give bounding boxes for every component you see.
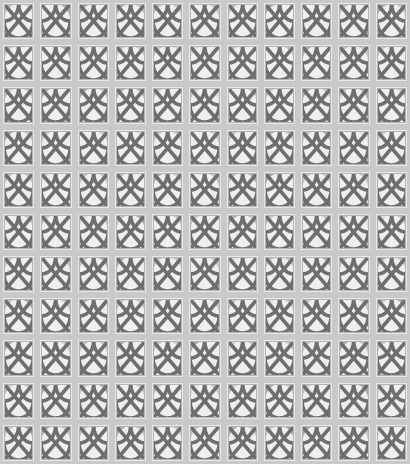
tile-cell bbox=[186, 422, 223, 464]
tile-pattern-10-7 bbox=[264, 425, 295, 461]
tile-pattern-0-0 bbox=[3, 3, 34, 39]
tile-cell bbox=[186, 169, 223, 211]
tile-pattern-1-0 bbox=[3, 45, 34, 81]
tile-pattern-2-9 bbox=[338, 87, 369, 123]
tile-pattern-9-7 bbox=[264, 383, 295, 419]
tile-pattern-7-0 bbox=[3, 298, 34, 334]
tile-pattern-8-7 bbox=[264, 340, 295, 376]
tile-pattern-0-2 bbox=[78, 3, 109, 39]
tile-pattern-8-6 bbox=[227, 340, 258, 376]
tile-pattern-7-4 bbox=[152, 298, 183, 334]
tile-pattern-10-3 bbox=[115, 425, 146, 461]
tile-pattern-4-4 bbox=[152, 172, 183, 208]
tile-pattern-4-0 bbox=[3, 172, 34, 208]
tile-cell bbox=[112, 380, 149, 422]
tile-pattern-8-2 bbox=[78, 340, 109, 376]
tile-cell bbox=[224, 127, 261, 169]
tile-cell bbox=[224, 211, 261, 253]
tile-pattern-8-0 bbox=[3, 340, 34, 376]
tile-cell bbox=[75, 253, 112, 295]
tile-pattern-6-4 bbox=[152, 256, 183, 292]
tile-pattern-9-9 bbox=[338, 383, 369, 419]
tile-pattern-9-10 bbox=[376, 383, 407, 419]
tile-cell bbox=[335, 84, 372, 126]
tile-pattern-6-8 bbox=[301, 256, 332, 292]
tile-cell bbox=[149, 127, 186, 169]
tile-pattern-9-4 bbox=[152, 383, 183, 419]
tile-pattern-8-9 bbox=[338, 340, 369, 376]
tile-pattern-6-5 bbox=[189, 256, 220, 292]
tile-pattern-10-5 bbox=[189, 425, 220, 461]
tile-pattern-6-0 bbox=[3, 256, 34, 292]
tile-pattern-10-8 bbox=[301, 425, 332, 461]
tile-cell bbox=[224, 422, 261, 464]
tile-cell bbox=[75, 0, 112, 42]
tile-cell bbox=[112, 0, 149, 42]
tile-pattern-5-2 bbox=[78, 214, 109, 250]
tile-pattern-10-1 bbox=[40, 425, 71, 461]
tile-cell bbox=[261, 422, 298, 464]
tile-pattern-5-7 bbox=[264, 214, 295, 250]
tile-cell bbox=[0, 127, 37, 169]
tile-pattern-7-5 bbox=[189, 298, 220, 334]
tile-cell bbox=[112, 127, 149, 169]
tile-cell bbox=[335, 253, 372, 295]
tile-pattern-1-7 bbox=[264, 45, 295, 81]
tile-pattern-2-8 bbox=[301, 87, 332, 123]
tile-cell bbox=[224, 42, 261, 84]
tile-pattern-1-6 bbox=[227, 45, 258, 81]
tile-pattern-4-8 bbox=[301, 172, 332, 208]
tile-pattern-6-1 bbox=[40, 256, 71, 292]
tile-cell bbox=[298, 127, 335, 169]
tile-pattern-8-10 bbox=[376, 340, 407, 376]
tile-cell bbox=[37, 211, 74, 253]
tile-pattern-7-10 bbox=[376, 298, 407, 334]
tile-cell bbox=[186, 84, 223, 126]
tile-pattern-2-0 bbox=[3, 87, 34, 123]
tile-pattern-9-3 bbox=[115, 383, 146, 419]
tile-pattern-4-3 bbox=[115, 172, 146, 208]
tile-pattern-6-7 bbox=[264, 256, 295, 292]
tile-cell bbox=[335, 42, 372, 84]
tile-cell bbox=[261, 253, 298, 295]
tile-cell bbox=[149, 169, 186, 211]
tile-cell bbox=[373, 422, 410, 464]
tile-cell bbox=[149, 253, 186, 295]
tile-cell bbox=[224, 295, 261, 337]
tile-cell bbox=[186, 42, 223, 84]
tile-cell bbox=[75, 84, 112, 126]
tile-pattern-9-8 bbox=[301, 383, 332, 419]
tile-cell bbox=[261, 380, 298, 422]
tile-cell bbox=[224, 380, 261, 422]
tile-pattern-3-3 bbox=[115, 130, 146, 166]
tile-cell bbox=[298, 84, 335, 126]
tile-cell bbox=[0, 422, 37, 464]
tile-pattern-5-8 bbox=[301, 214, 332, 250]
tile-cell bbox=[75, 422, 112, 464]
tile-cell bbox=[335, 127, 372, 169]
tile-cell bbox=[186, 380, 223, 422]
tile-pattern-0-9 bbox=[338, 3, 369, 39]
tile-pattern-2-4 bbox=[152, 87, 183, 123]
tile-pattern-4-10 bbox=[376, 172, 407, 208]
tile-cell bbox=[335, 380, 372, 422]
tile-pattern-0-1 bbox=[40, 3, 71, 39]
tile-pattern-9-5 bbox=[189, 383, 220, 419]
tile-cell bbox=[112, 337, 149, 379]
tile-cell bbox=[335, 337, 372, 379]
tile-cell bbox=[373, 380, 410, 422]
tile-cell bbox=[224, 169, 261, 211]
tile-cell bbox=[37, 169, 74, 211]
tile-cell bbox=[37, 0, 74, 42]
tile-pattern-0-8 bbox=[301, 3, 332, 39]
tile-pattern-4-5 bbox=[189, 172, 220, 208]
tile-cell bbox=[224, 337, 261, 379]
tile-pattern-3-6 bbox=[227, 130, 258, 166]
tile-grid-canvas bbox=[0, 0, 410, 464]
tile-pattern-9-1 bbox=[40, 383, 71, 419]
tile-cell bbox=[335, 0, 372, 42]
tile-cell bbox=[186, 127, 223, 169]
tile-pattern-3-5 bbox=[189, 130, 220, 166]
tile-cell bbox=[373, 84, 410, 126]
tile-pattern-4-6 bbox=[227, 172, 258, 208]
